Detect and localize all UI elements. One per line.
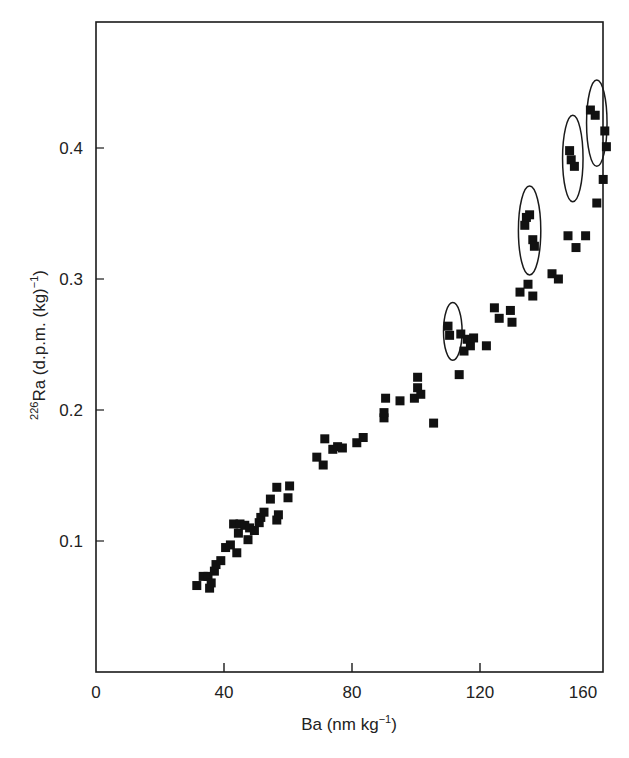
data-point-marker [564, 231, 573, 240]
data-point-marker [554, 275, 563, 284]
highlight-ellipse [587, 80, 607, 166]
data-points [192, 106, 611, 593]
data-point-marker [192, 581, 201, 590]
data-point-marker [591, 111, 600, 120]
data-point-marker [482, 341, 491, 350]
y-tick-label: 0.3 [59, 270, 83, 289]
x-axis-title: Ba (nm kg−1) [301, 713, 397, 734]
data-point-marker [565, 146, 574, 155]
scatter-chart: 04080120160 0.10.20.30.4 Ba (nm kg−1) 22… [0, 0, 629, 758]
data-point-marker [381, 394, 390, 403]
data-point-marker [359, 433, 368, 442]
y-tick-label: 0.1 [59, 532, 83, 551]
data-point-marker [416, 390, 425, 399]
x-tick-label: 160 [569, 683, 597, 702]
data-point-marker [226, 540, 235, 549]
data-point-marker [274, 510, 283, 519]
x-tick-label: 80 [343, 683, 362, 702]
x-tick-label: 0 [91, 683, 100, 702]
data-point-marker [319, 461, 328, 470]
data-point-marker [506, 306, 515, 315]
data-point-marker [490, 303, 499, 312]
data-point-marker [570, 162, 579, 171]
data-point-marker [380, 408, 389, 417]
data-point-marker [528, 292, 537, 301]
data-point-marker [284, 493, 293, 502]
data-point-marker [244, 535, 253, 544]
plot-frame [96, 22, 603, 672]
data-point-marker [508, 318, 517, 327]
data-point-marker [285, 481, 294, 490]
data-point-marker [234, 529, 243, 538]
highlight-ellipse [518, 186, 540, 275]
data-point-marker [466, 341, 475, 350]
data-point-marker [216, 556, 225, 565]
data-point-marker [396, 396, 405, 405]
data-point-marker [429, 419, 438, 428]
data-point-marker [312, 453, 321, 462]
data-point-marker [495, 314, 504, 323]
data-point-marker [599, 175, 608, 184]
data-point-marker [320, 434, 329, 443]
data-point-marker [445, 331, 454, 340]
data-point-marker [600, 126, 609, 135]
data-point-marker [260, 508, 269, 517]
data-point-marker [455, 370, 464, 379]
data-point-marker [581, 231, 590, 240]
x-tick-label: 120 [466, 683, 494, 702]
data-point-marker [444, 322, 453, 331]
x-axis-ticks: 04080120160 [91, 663, 597, 702]
data-point-marker [525, 210, 534, 219]
data-point-marker [250, 526, 259, 535]
data-point-marker [272, 483, 281, 492]
data-point-marker [572, 243, 581, 252]
data-point-marker [266, 495, 275, 504]
y-axis-title: 226Ra (d.p.m. (kg)−1) [28, 270, 49, 420]
x-tick-label: 40 [215, 683, 234, 702]
data-point-marker [524, 280, 533, 289]
data-point-marker [232, 548, 241, 557]
data-point-marker [207, 578, 216, 587]
data-point-marker [602, 142, 611, 151]
y-tick-label: 0.2 [59, 401, 83, 420]
data-point-marker [520, 221, 529, 230]
data-point-marker [592, 199, 601, 208]
data-point-marker [469, 333, 478, 342]
y-axis-ticks: 0.10.20.30.4 [59, 139, 104, 551]
data-point-marker [413, 373, 422, 382]
data-point-marker [516, 288, 525, 297]
data-point-marker [530, 242, 539, 251]
y-tick-label: 0.4 [59, 139, 83, 158]
data-point-marker [338, 443, 347, 452]
